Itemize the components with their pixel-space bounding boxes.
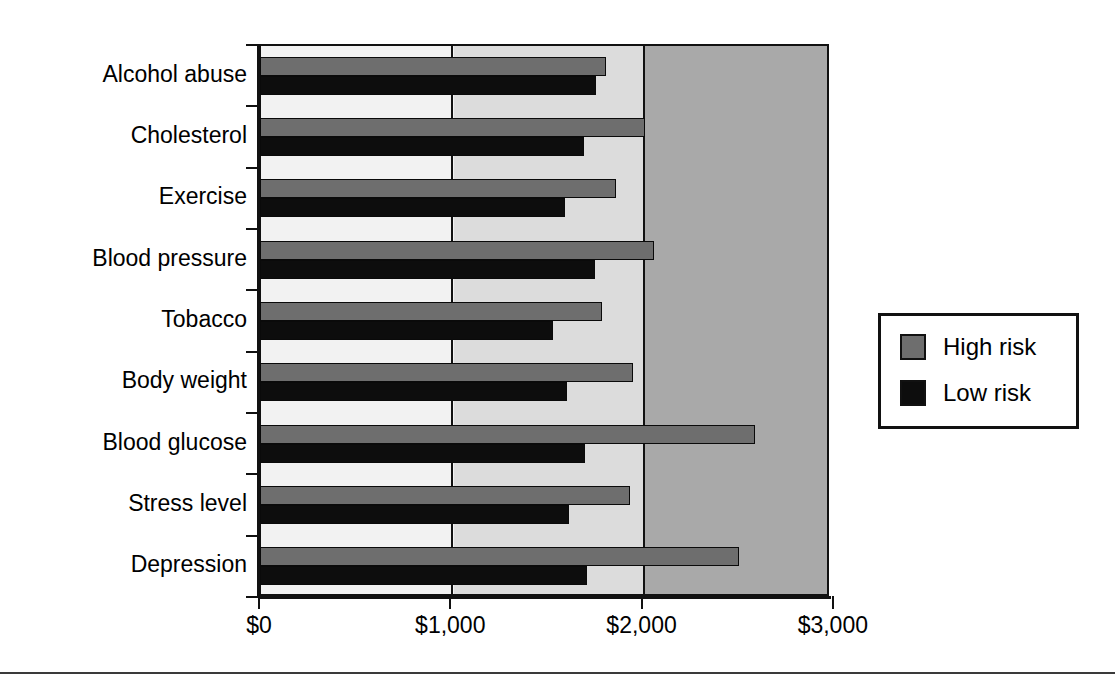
y-tick-label: Body weight: [0, 369, 247, 392]
legend-item-low-risk: Low risk: [900, 379, 1031, 407]
x-tick-label: $3,000: [798, 612, 868, 639]
chart-legend: High risk Low risk: [878, 313, 1079, 429]
footer-divider: [0, 672, 1115, 674]
y-tick-label: Depression: [0, 553, 247, 576]
legend-label-high-risk: High risk: [943, 333, 1036, 361]
legend-label-low-risk: Low risk: [943, 379, 1031, 407]
y-tick-label: Stress level: [0, 492, 247, 515]
legend-swatch-low-risk: [900, 380, 926, 406]
y-tick-label: Cholesterol: [0, 124, 247, 147]
y-tick-label: Exercise: [0, 185, 247, 208]
y-tick-label: Tobacco: [0, 308, 247, 331]
x-tick-label: $0: [246, 612, 272, 639]
chart-figure: Alcohol abuseCholesterolExerciseBlood pr…: [0, 0, 1115, 681]
y-tick-label: Blood pressure: [0, 247, 247, 270]
x-tick-label: $2,000: [606, 612, 676, 639]
y-tick-label: Alcohol abuse: [0, 63, 247, 86]
y-tick-label: Blood glucose: [0, 431, 247, 454]
legend-swatch-high-risk: [900, 334, 926, 360]
x-tick-label: $1,000: [415, 612, 485, 639]
legend-item-high-risk: High risk: [900, 333, 1036, 361]
